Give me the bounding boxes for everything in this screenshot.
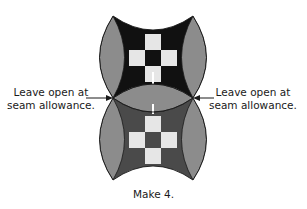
caption: Make 4. [0,188,307,201]
annotation-right: Leave open at seam allowance. [209,86,297,111]
annotation-left: Leave open at seam allowance. [7,86,95,111]
annotation-left-line2: seam allowance. [7,99,95,112]
annotation-right-line2: seam allowance. [209,99,297,112]
annotation-right-line1: Leave open at [209,86,297,99]
annotation-left-line1: Leave open at [7,86,95,99]
